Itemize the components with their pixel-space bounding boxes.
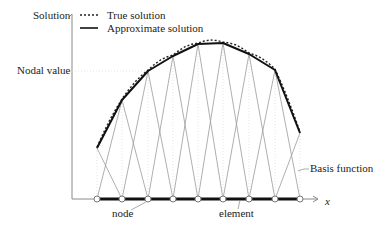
basis-function-label: Basis function [310,162,374,174]
basis-function-hat [173,44,223,199]
node-label: node [112,207,134,219]
nodes [94,196,303,202]
x-axis-label: x [324,195,330,207]
basis-function-hat [97,100,148,199]
basis-function-hat [198,43,249,199]
node-circle [145,196,151,202]
basis-function-hat [275,133,300,199]
basis-function-hat [97,148,122,199]
legend-true-label: True solution [107,9,166,21]
node-circle [119,196,125,202]
nodal-value-label: Nodal value [17,64,71,76]
node-circle [94,196,100,202]
basis-function-leader [298,169,309,171]
node-circle [297,196,303,202]
basis-function-hat [249,70,300,199]
element-label: element [219,207,254,219]
node-circle [220,196,226,202]
y-axis-label: Solution [33,9,71,21]
node-circle [195,196,201,202]
legend-approx-label: Approximate solution [107,22,204,34]
node-circle [272,196,278,202]
node-circle [170,196,176,202]
fem-diagram: True solution Approximate solution Solut… [0,0,388,226]
node-circle [246,196,252,202]
